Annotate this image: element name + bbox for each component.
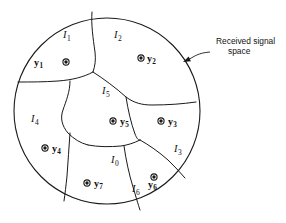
signal-space-diagram: I1I2I5I4I3I0I6 y1y2y3y4y5y6y7 Received s… [0, 0, 286, 223]
point-marker-dot-icon [139, 56, 142, 59]
callout-annotation: Received signal space [183, 36, 275, 62]
point-marker-dot-icon [85, 181, 88, 184]
point-marker-dot-icon [43, 146, 46, 149]
point-marker-dot-icon [111, 119, 114, 122]
point-marker-dot-icon [64, 60, 67, 63]
callout-text-line-1: Received signal [216, 36, 275, 46]
callout-text-line-2: space [228, 46, 251, 56]
diagram-canvas: I1I2I5I4I3I0I6 y1y2y3y4y5y6y7 Received s… [0, 0, 286, 223]
received-signal-space-boundary [14, 18, 200, 204]
point-marker-dot-icon [159, 119, 162, 122]
